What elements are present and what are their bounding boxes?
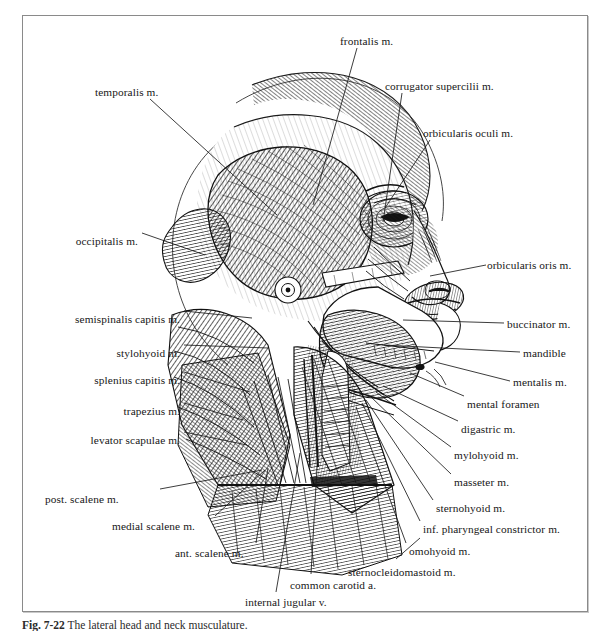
label-digastric: digastric m.	[461, 424, 516, 436]
label-post-scalene: post. scalene m.	[45, 494, 119, 506]
figure-caption-text: The lateral head and neck musculature.	[67, 619, 247, 631]
label-frontalis: frontalis m.	[340, 36, 393, 48]
label-corrugator-supercilii: corrugator supercilii m.	[385, 81, 494, 93]
label-semispinalis-capitis: semispinalis capitis m.	[75, 314, 180, 326]
label-splenius-capitis: splenius capitis m.	[94, 375, 180, 387]
label-mandible: mandible	[523, 348, 566, 360]
label-common-carotid: common carotid a.	[290, 580, 376, 592]
label-occipitalis: occipitalis m.	[76, 236, 138, 248]
label-mental-foramen: mental foramen	[467, 399, 540, 411]
label-internal-jugular: internal jugular v.	[245, 597, 327, 609]
anatomical-plate: frontalis m.corrugator supercilii m.orbi…	[0, 0, 605, 631]
label-orbicularis-oris: orbicularis oris m.	[487, 260, 571, 272]
label-buccinator: buccinator m.	[507, 319, 570, 331]
label-mylohyoid: mylohyoid m.	[454, 450, 519, 462]
label-stylohyoid: stylohyoid m.	[117, 348, 180, 360]
label-ant-scalene: ant. scalene m.	[175, 548, 244, 560]
figure-caption: Fig. 7-22 The lateral head and neck musc…	[22, 619, 248, 631]
label-masseter: masseter m.	[454, 477, 509, 489]
label-sternohyoid: sternohyoid m.	[436, 503, 505, 515]
label-omohyoid: omohyoid m.	[409, 546, 470, 558]
label-sternocleidomastoid: sternocleidomastoid m.	[348, 567, 456, 579]
label-temporalis: temporalis m.	[95, 87, 158, 99]
figure-caption-number: Fig. 7-22	[22, 619, 65, 631]
label-medial-scalene: medial scalene m.	[112, 521, 195, 533]
label-trapezius: trapezius m.	[124, 406, 180, 418]
label-levator-scapulae: levator scapulae m.	[91, 435, 180, 447]
label-orbicularis-oculi: orbicularis oculi m.	[423, 128, 513, 140]
label-mentalis: mentalis m.	[513, 377, 567, 389]
illustration-ink	[152, 55, 468, 577]
label-inf-pharyngeal-constrictor: inf. pharyngeal constrictor m.	[423, 524, 560, 536]
